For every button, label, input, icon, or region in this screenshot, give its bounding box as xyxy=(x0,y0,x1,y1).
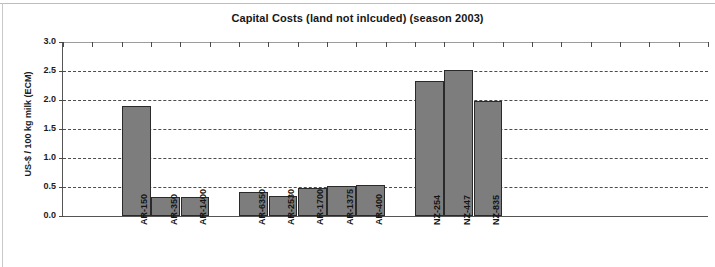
x-axis-tick-mark xyxy=(210,42,211,47)
figure-left-border xyxy=(2,3,3,267)
x-axis-tick-label: NZ-447 xyxy=(462,195,472,225)
x-axis-tick-label: AR-400 xyxy=(374,194,384,225)
x-axis-tick-mark xyxy=(532,42,533,47)
y-axis-tick-mark xyxy=(59,187,64,188)
x-axis-tick-mark xyxy=(649,42,650,47)
plot-area xyxy=(62,42,708,217)
y-axis-tick-label: 1.5 xyxy=(22,123,56,133)
x-axis-tick-mark xyxy=(327,42,328,47)
y-axis-tick-label: 0.0 xyxy=(22,210,56,220)
x-axis-tick-mark xyxy=(503,42,504,47)
x-axis-tick-label: NZ-254 xyxy=(432,195,442,225)
y-axis-tick-mark xyxy=(59,216,64,217)
x-axis-tick-label: AR-1700 xyxy=(315,189,325,225)
x-axis-tick-label: AR-1375 xyxy=(345,189,355,225)
chart-figure: Capital Costs (land not inlcuded) (seaso… xyxy=(0,0,715,267)
x-axis-tick-mark xyxy=(561,42,562,47)
x-axis-tick-mark xyxy=(386,42,387,47)
x-axis-tick-label: NZ-835 xyxy=(491,195,501,225)
y-axis-tick-label: 1.0 xyxy=(22,152,56,162)
x-axis-tick-mark xyxy=(151,42,152,47)
y-axis-tick-label: 3.0 xyxy=(22,36,56,46)
gridline xyxy=(63,71,708,72)
y-axis-tick-mark xyxy=(59,100,64,101)
x-axis-tick-mark xyxy=(473,42,474,47)
gridline xyxy=(63,100,708,101)
chart-title: Capital Costs (land not inlcuded) (seaso… xyxy=(0,12,715,24)
y-axis-tick-label: 2.5 xyxy=(22,65,56,75)
x-axis-tick-mark xyxy=(268,42,269,47)
x-axis-tick-mark xyxy=(708,42,709,47)
gridline xyxy=(63,187,708,188)
y-axis-tick-mark xyxy=(59,71,64,72)
x-axis-tick-mark xyxy=(298,42,299,47)
y-axis-tick-label: 2.0 xyxy=(22,94,56,104)
x-axis-tick-mark xyxy=(63,42,64,47)
x-axis-tick-mark xyxy=(415,42,416,47)
x-axis-tick-label: AR-1400 xyxy=(198,189,208,225)
x-axis-tick-mark xyxy=(92,42,93,47)
y-axis-tick-mark xyxy=(59,158,64,159)
x-axis-tick-mark xyxy=(591,42,592,47)
x-axis-tick-label: AR-2530 xyxy=(286,189,296,225)
figure-top-border xyxy=(0,3,715,4)
y-axis-tick-label: 0.5 xyxy=(22,181,56,191)
x-axis-tick-mark xyxy=(444,42,445,47)
x-axis-tick-label: AR-6350 xyxy=(257,189,267,225)
y-axis-tick-mark xyxy=(59,129,64,130)
x-axis-tick-mark xyxy=(356,42,357,47)
x-axis-tick-mark xyxy=(180,42,181,47)
x-axis-tick-mark xyxy=(620,42,621,47)
gridline xyxy=(63,129,708,130)
x-axis-tick-label: AR-350 xyxy=(169,194,179,225)
x-axis-tick-mark xyxy=(239,42,240,47)
x-axis-tick-label: AR-150 xyxy=(139,194,149,225)
x-axis-tick-mark xyxy=(122,42,123,47)
x-axis-tick-mark xyxy=(679,42,680,47)
gridline xyxy=(63,158,708,159)
